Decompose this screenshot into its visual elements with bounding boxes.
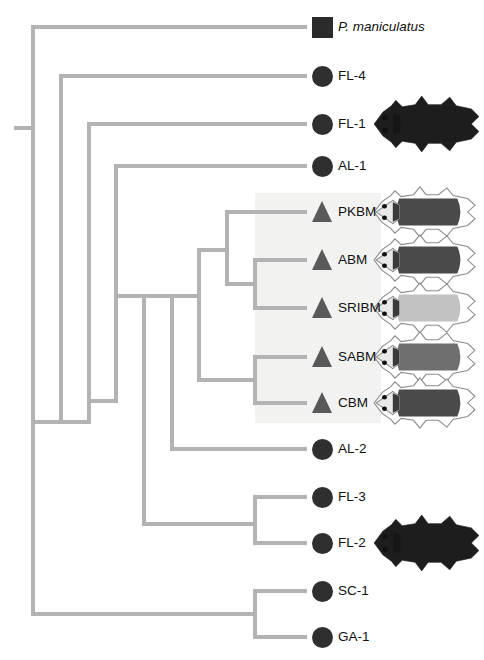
specimen-photo-cbm <box>374 378 475 428</box>
pelt-snout-shadow <box>393 298 399 317</box>
specimen-photo-sribm <box>374 283 475 333</box>
circle-marker-fl2 <box>312 533 333 554</box>
circle-marker-sc1 <box>312 581 333 602</box>
pelt-eye-2 <box>382 263 387 268</box>
pelt-snout-shadow <box>394 532 400 553</box>
pelt-eye-1 <box>382 349 387 354</box>
tip-label-fl1: FL-1 <box>338 117 366 131</box>
triangle-marker-sribm <box>312 297 332 318</box>
triangle-marker-sabm <box>312 346 332 367</box>
pelt-snout-shadow <box>393 347 399 366</box>
tip-label-sc1: SC-1 <box>338 584 369 598</box>
circle-marker-fl3 <box>312 487 333 508</box>
pelt-snout-shadow <box>394 113 400 134</box>
pelt-dorsal-stripe <box>396 199 460 226</box>
tip-label-sribm: SRIBM <box>338 301 381 315</box>
pelt-snout-shadow <box>393 393 399 412</box>
specimen-photo-fl2 <box>374 515 479 571</box>
tip-label-ga1: GA-1 <box>338 630 370 644</box>
pelt-eye-1 <box>382 252 387 257</box>
tip-label-fl4: FL-4 <box>338 69 366 83</box>
tip-label-fl2: FL-2 <box>338 536 366 550</box>
pelt-eye-1 <box>382 395 387 400</box>
pelt-dorsal-stripe <box>396 390 460 417</box>
pelt-eye-2 <box>382 311 387 316</box>
pelt-eye-2 <box>382 406 387 411</box>
square-marker-pman <box>312 17 333 38</box>
pelt-eye-1 <box>382 534 387 539</box>
tip-label-abm: ABM <box>338 253 367 267</box>
circle-marker-fl1 <box>312 114 333 135</box>
pelt-eye-2 <box>382 215 387 220</box>
specimen-photo-sabm <box>374 332 475 382</box>
pelt-eye-1 <box>382 204 387 209</box>
pelt-dorsal-stripe <box>397 109 463 139</box>
tip-label-pkbm: PKBM <box>338 205 376 219</box>
pelt-eye-2 <box>382 547 387 552</box>
tip-label-cbm: CBM <box>338 396 368 410</box>
tip-label-sabm: SABM <box>338 350 376 364</box>
specimen-photos <box>374 96 479 571</box>
circle-marker-ga1 <box>312 627 333 648</box>
pelt-eye-1 <box>382 300 387 305</box>
triangle-marker-abm <box>312 249 332 270</box>
circle-marker-fl4 <box>312 66 333 87</box>
pelt-snout-shadow <box>393 250 399 269</box>
tip-label-al2: AL-2 <box>338 442 367 456</box>
pelt-eye-1 <box>382 115 387 120</box>
pelt-dorsal-stripe <box>396 344 460 371</box>
specimen-photo-abm <box>374 235 475 285</box>
tree-branch-canvas <box>0 0 484 660</box>
circle-marker-al2 <box>312 439 333 460</box>
tip-label-fl3: FL-3 <box>338 490 366 504</box>
pelt-snout-shadow <box>393 202 399 221</box>
tip-label-pman: P. maniculatus <box>338 20 425 34</box>
triangle-marker-pkbm <box>312 201 332 222</box>
specimen-photo-pkbm <box>374 187 475 237</box>
triangle-marker-cbm <box>312 392 332 413</box>
pelt-dorsal-stripe <box>396 247 460 274</box>
pelt-dorsal-stripe <box>396 295 460 322</box>
tip-label-al1: AL-1 <box>338 159 367 173</box>
pelt-dorsal-stripe <box>397 528 463 558</box>
circle-marker-al1 <box>312 156 333 177</box>
pelt-eye-2 <box>382 360 387 365</box>
phylogenetic-tree-figure: P. maniculatusFL-4FL-1AL-1PKBMABMSRIBMSA… <box>0 0 484 660</box>
pelt-eye-2 <box>382 128 387 133</box>
specimen-photo-fl1 <box>374 96 479 152</box>
